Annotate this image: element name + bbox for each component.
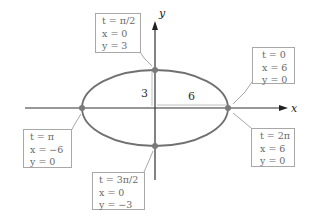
- y-axis-label: y: [158, 7, 166, 20]
- annotation-right-end-y: y = 0: [260, 155, 290, 168]
- annotation-right-start-y: y = 0: [262, 74, 290, 87]
- semi-minor-label: 3: [141, 87, 148, 100]
- annotation-right-end-x: x = 6: [260, 143, 290, 156]
- x-axis-arrow-icon: [279, 105, 288, 111]
- annotation-right-start: t = 0 x = 6 y = 0: [252, 47, 295, 84]
- annotation-left-y: y = 0: [30, 156, 67, 169]
- leader-bottom: [144, 151, 153, 172]
- annotation-top-t: t = π/2: [102, 15, 136, 28]
- point-top: [152, 67, 158, 73]
- annotation-left-t: t = π: [30, 131, 67, 144]
- leader-right-end: [233, 113, 251, 128]
- leader-top: [140, 52, 152, 66]
- annotation-left-x: x = −6: [30, 144, 67, 157]
- x-axis-label: x: [291, 102, 298, 115]
- annotation-left: t = π x = −6 y = 0: [23, 129, 72, 168]
- ellipse-plot: y x 3 6: [0, 0, 317, 223]
- y-axis-arrow-icon: [152, 21, 158, 30]
- point-bottom: [152, 143, 158, 149]
- annotation-bottom: t = 3π/2 x = 0 y = −3: [92, 172, 145, 210]
- point-left: [79, 105, 85, 111]
- point-right: [225, 105, 231, 111]
- annotation-right-end: t = 2π x = 6 y = 0: [251, 128, 295, 167]
- annotation-top-x: x = 0: [102, 28, 136, 41]
- annotation-bottom-x: x = 0: [99, 187, 140, 200]
- semi-major-label: 6: [188, 90, 195, 103]
- annotation-right-start-t: t = 0: [262, 49, 290, 62]
- annotation-top-y: y = 3: [102, 40, 136, 53]
- annotation-top: t = π/2 x = 0 y = 3: [95, 13, 141, 53]
- annotation-right-end-t: t = 2π: [260, 130, 290, 143]
- annotation-bottom-y: y = −3: [99, 199, 140, 212]
- leader-right-start: [233, 82, 252, 104]
- annotation-right-start-x: x = 6: [262, 62, 290, 75]
- parametric-ellipse-diagram: y x 3 6 t = π/2 x = 0 y = 3 t = 0 x = 6 …: [0, 0, 317, 223]
- annotation-bottom-t: t = 3π/2: [99, 174, 140, 187]
- leader-left: [71, 114, 81, 131]
